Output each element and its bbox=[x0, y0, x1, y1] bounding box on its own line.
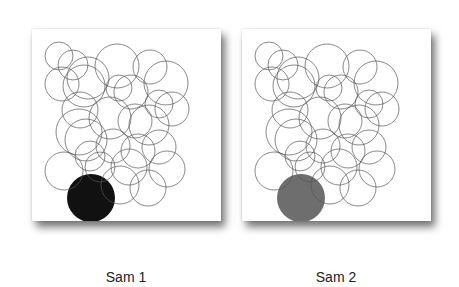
circle bbox=[114, 75, 148, 109]
circle bbox=[352, 130, 386, 164]
circle bbox=[56, 109, 102, 155]
circle bbox=[95, 44, 139, 88]
circle bbox=[324, 75, 358, 109]
circle bbox=[118, 104, 152, 138]
circle bbox=[89, 97, 131, 139]
circle bbox=[266, 109, 312, 155]
circle bbox=[149, 151, 185, 187]
circle bbox=[321, 149, 357, 185]
highlighted-circle bbox=[277, 174, 325, 221]
circle bbox=[299, 97, 341, 139]
circle-diagram-2 bbox=[242, 29, 431, 221]
circle bbox=[343, 50, 377, 84]
circle bbox=[144, 61, 188, 105]
circle bbox=[45, 152, 83, 190]
circle bbox=[142, 130, 176, 164]
circle bbox=[45, 42, 73, 70]
label-sam-1: Sam 1 bbox=[66, 269, 186, 285]
circle bbox=[340, 170, 376, 206]
circle bbox=[255, 152, 293, 190]
label-sam-2: Sam 2 bbox=[276, 269, 396, 285]
panel-sam-1 bbox=[32, 29, 221, 221]
circle bbox=[130, 170, 166, 206]
circle bbox=[111, 149, 147, 185]
circle bbox=[255, 42, 283, 70]
circle bbox=[133, 50, 167, 84]
highlighted-circle bbox=[67, 174, 115, 221]
circle bbox=[328, 104, 362, 138]
circle-diagram-1 bbox=[32, 29, 221, 221]
panel-sam-2 bbox=[242, 29, 431, 221]
circle bbox=[255, 67, 289, 101]
circle bbox=[305, 44, 349, 88]
circle bbox=[359, 151, 395, 187]
circle bbox=[354, 61, 398, 105]
circle bbox=[45, 67, 79, 101]
